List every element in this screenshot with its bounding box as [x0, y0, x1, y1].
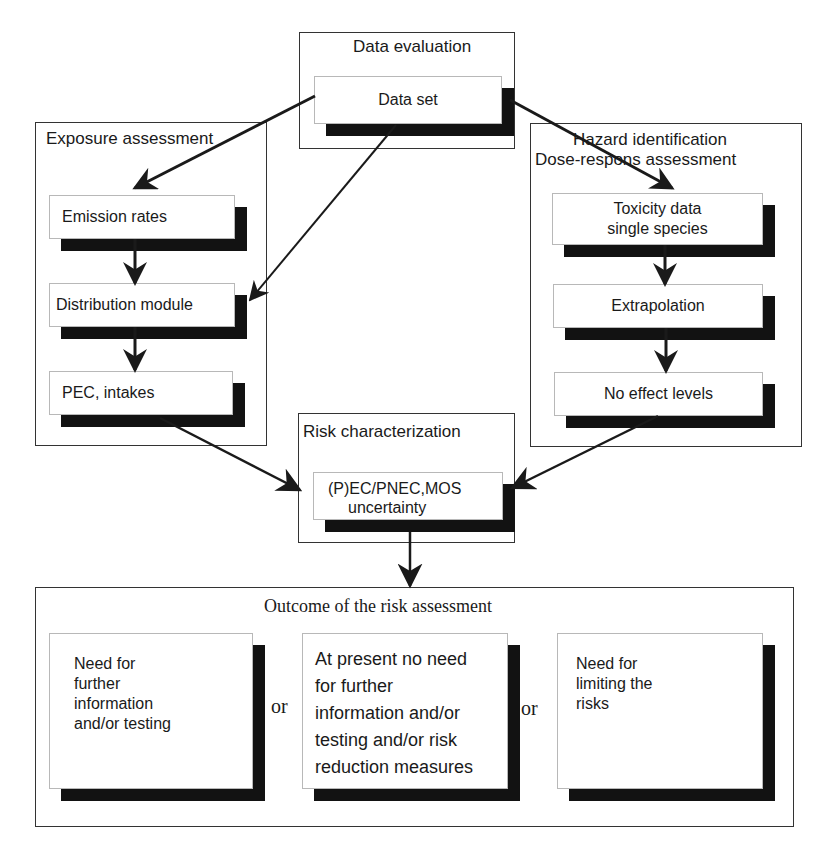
- no-effect-levels-box: No effect levels: [554, 372, 763, 416]
- no-effect-levels-label: No effect levels: [604, 384, 713, 404]
- outcome-option-2-line: At present no need: [315, 646, 507, 673]
- outcome-option-1-line: information: [74, 694, 252, 714]
- data-set-box: Data set: [314, 76, 502, 124]
- toxicity-data-node: Toxicity data single species: [552, 193, 775, 257]
- extrapolation-label: Extrapolation: [611, 296, 704, 316]
- extrapolation-node: Extrapolation: [553, 284, 775, 340]
- emission-rates-node: Emission rates: [49, 195, 247, 251]
- data-set-label: Data set: [378, 90, 438, 110]
- risk-ratio-node: (P)EC/PNEC,MOS uncertainty: [313, 472, 515, 532]
- dose-response-title: Dose-respons assessment: [535, 150, 736, 170]
- distribution-module-box: Distribution module: [49, 283, 235, 327]
- pec-intakes-label: PEC, intakes: [62, 383, 232, 403]
- toxicity-data-box: Toxicity data single species: [552, 193, 763, 245]
- distribution-module-node: Distribution module: [49, 283, 247, 339]
- outcome-option-1-box: Need for further information and/or test…: [49, 633, 253, 789]
- or-separator-2: or: [521, 697, 538, 720]
- or-separator-1: or: [271, 695, 288, 718]
- outcome-option-2-line: testing and/or risk: [315, 727, 507, 754]
- pec-intakes-node: PEC, intakes: [49, 371, 245, 427]
- distribution-module-label: Distribution module: [56, 295, 234, 315]
- outcome-option-1-line: further: [74, 674, 252, 694]
- outcome-option-3-line: risks: [576, 694, 762, 714]
- risk-ratio-label-1: (P)EC/PNEC,MOS: [328, 479, 502, 498]
- no-effect-levels-node: No effect levels: [554, 372, 775, 428]
- extrapolation-box: Extrapolation: [553, 284, 763, 328]
- hazard-identification-title: Hazard identification: [573, 130, 727, 150]
- outcome-option-no-need: At present no need for further informati…: [302, 633, 520, 801]
- risk-ratio-label-2: uncertainty: [328, 498, 502, 517]
- exposure-assessment-title: Exposure assessment: [46, 129, 213, 149]
- outcome-option-further-info: Need for further information and/or test…: [49, 633, 265, 801]
- outcome-option-1-line: Need for: [74, 654, 252, 674]
- data-evaluation-title: Data evaluation: [353, 37, 471, 57]
- toxicity-data-label-2: single species: [607, 219, 708, 239]
- outcome-option-3-line: Need for: [576, 654, 762, 674]
- outcome-option-2-box: At present no need for further informati…: [302, 633, 508, 789]
- emission-rates-box: Emission rates: [49, 195, 235, 239]
- risk-ratio-box: (P)EC/PNEC,MOS uncertainty: [313, 472, 503, 520]
- outcome-option-2-line: reduction measures: [315, 754, 507, 781]
- outcome-option-3-box: Need for limiting the risks: [557, 633, 763, 789]
- pec-intakes-box: PEC, intakes: [49, 371, 233, 415]
- arrow-dataset-to-distribution: [250, 125, 396, 300]
- outcome-option-2-line: information and/or: [315, 700, 507, 727]
- outcome-option-limit-risks: Need for limiting the risks: [557, 633, 775, 801]
- data-set-node: Data set: [314, 76, 514, 136]
- outcome-option-3-line: limiting the: [576, 674, 762, 694]
- emission-rates-label: Emission rates: [62, 207, 234, 227]
- outcome-option-2-line: for further: [315, 673, 507, 700]
- outcome-option-1-line: and/or testing: [74, 714, 252, 734]
- risk-characterization-title: Risk characterization: [303, 422, 461, 442]
- toxicity-data-label-1: Toxicity data: [613, 199, 701, 219]
- outcome-title: Outcome of the risk assessment: [264, 596, 492, 617]
